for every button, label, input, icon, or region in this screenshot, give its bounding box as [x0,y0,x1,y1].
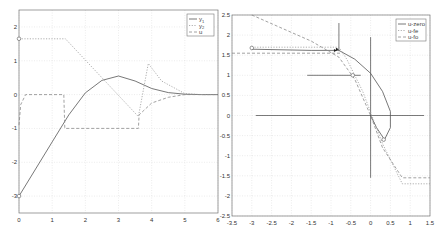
y-tick-label: 1.5 [222,52,231,58]
x-tick-label: -0.5 [346,220,357,226]
circle-marker [17,37,21,41]
y-tick-label: -0.5 [220,133,231,139]
x-tick-label: -2 [289,220,295,226]
legend-label: u-fe [408,28,419,34]
plot-2: -3.5-3-2.5-2-1.5-1-0.500.511.5-2.5-2-1.5… [220,12,435,226]
y-tick-label: -1 [225,153,231,159]
x-tick-label: 5 [183,217,187,223]
y-tick-label: -2 [225,193,231,199]
grid [19,10,218,213]
figure: 0123456-3-2-1012y1y2u-3.5-3-2.5-2-1.5-1-… [0,0,443,232]
x-tick-label: 0 [17,217,21,223]
y-tick-label: -3 [12,193,18,199]
y-tick-label: 1 [14,58,18,64]
circle-marker [250,46,254,50]
y-tick-label: 2 [227,32,231,38]
y-tick-label: -2 [12,159,18,165]
x-tick-label: -2.5 [266,220,277,226]
x-tick-label: -1.5 [306,220,317,226]
y-tick-label: 2.5 [222,12,231,18]
x-tick-label: 1 [50,217,54,223]
y-tick-label: 0.5 [222,92,231,98]
y-tick-label: 1 [227,72,231,78]
circle-marker [17,194,21,198]
legend-label: u [199,29,202,35]
x-tick-label: 1.5 [426,220,435,226]
legend: y1y2u [187,14,214,36]
circle-marker [351,74,355,78]
y-tick-label: -2.5 [220,213,231,219]
circle-marker [382,138,386,142]
y-tick-label: -1.5 [220,173,231,179]
x-tick-label: 2 [84,217,88,223]
x-tick-label: -3.5 [227,220,238,226]
x-tick-label: 1 [409,220,413,226]
series-u-zero [252,49,391,139]
legend-label: u-zero [408,21,426,27]
x-tick-label: 4 [150,217,154,223]
legend-label: u-fo [408,34,419,40]
y-tick-label: -1 [12,125,18,131]
x-tick-label: 3 [117,217,121,223]
y-tick-label: 2 [14,24,18,30]
x-tick-label: 0 [369,220,373,226]
x-tick-label: -1 [328,220,334,226]
y-tick-label: 0 [227,113,231,119]
x-tick-label: 0.5 [386,220,395,226]
x-tick-label: -3 [249,220,255,226]
legend: u-zerou-feu-fo [396,19,426,41]
plot-1: 0123456-3-2-1012y1y2u [12,10,221,223]
y-tick-label: 0 [14,92,18,98]
